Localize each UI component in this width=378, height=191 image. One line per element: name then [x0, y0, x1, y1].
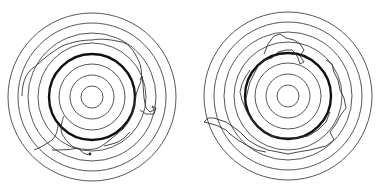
- left-trace-end-dot: [89, 153, 92, 156]
- ring: [204, 12, 372, 180]
- ring: [255, 63, 321, 129]
- left-target: [8, 13, 176, 181]
- ring: [28, 33, 156, 161]
- bold-ring: [49, 54, 135, 140]
- figure-canvas: [0, 0, 378, 191]
- ring: [70, 75, 114, 119]
- ring: [214, 22, 362, 170]
- ring: [234, 42, 342, 150]
- ring: [81, 86, 103, 108]
- ring: [8, 13, 176, 181]
- ring: [277, 85, 299, 107]
- ring: [59, 64, 125, 130]
- left-trace-path: [140, 76, 156, 114]
- right-target: [204, 12, 372, 180]
- ring: [266, 74, 310, 118]
- ring: [38, 43, 146, 151]
